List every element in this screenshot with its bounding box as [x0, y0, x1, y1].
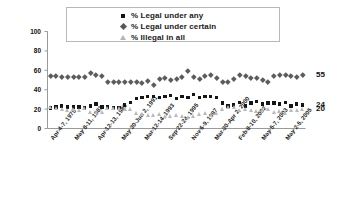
- data-point-square: [278, 102, 281, 105]
- data-point-square: [221, 101, 224, 104]
- series-end-value-label: 55: [316, 71, 325, 79]
- legend-item-legal-under-any: % Legal under any: [119, 10, 216, 20]
- data-point-triangle: [260, 108, 264, 112]
- data-point-triangle: [277, 109, 281, 113]
- data-point-triangle: [60, 107, 64, 111]
- series-end-value-label: 20: [316, 105, 325, 113]
- data-point-triangle: [209, 113, 213, 117]
- data-point-triangle: [266, 107, 270, 111]
- data-point-square: [255, 100, 258, 103]
- data-point-square: [129, 101, 132, 104]
- data-point-triangle: [105, 106, 109, 110]
- data-point-triangle: [134, 111, 138, 115]
- data-point-square: [266, 101, 269, 104]
- data-point-square: [135, 97, 138, 100]
- data-point-square: [100, 105, 103, 108]
- y-axis-tick-label: 100: [17, 28, 41, 35]
- data-point-square: [209, 95, 212, 98]
- data-point-square: [295, 102, 298, 105]
- data-point-triangle: [163, 114, 167, 118]
- data-point-triangle: [243, 107, 247, 111]
- data-point-triangle: [254, 109, 258, 113]
- data-point-square: [180, 95, 183, 98]
- data-point-square: [169, 94, 172, 97]
- data-point-square: [94, 102, 97, 105]
- data-point-triangle: [197, 112, 201, 116]
- data-point-triangle: [237, 108, 241, 112]
- data-point-triangle: [146, 113, 150, 117]
- data-point-square: [140, 96, 143, 99]
- data-point-triangle: [289, 108, 293, 112]
- data-point-triangle: [54, 106, 58, 110]
- data-point-triangle: [180, 114, 184, 118]
- legend-item-illegal-in-all: % Illegal in all: [119, 32, 216, 42]
- data-point-triangle: [48, 105, 52, 109]
- y-axis-tick-label: 40: [17, 86, 41, 93]
- data-point-triangle: [65, 108, 69, 112]
- data-point-triangle: [220, 107, 224, 111]
- data-point-triangle: [94, 110, 98, 114]
- data-point-triangle: [157, 112, 161, 116]
- data-point-triangle: [272, 110, 276, 114]
- diamond-marker-icon: [119, 22, 128, 31]
- data-point-square: [238, 101, 241, 104]
- data-point-triangle: [151, 113, 155, 117]
- data-point-triangle: [283, 111, 287, 115]
- data-point-square: [203, 95, 206, 98]
- data-point-triangle: [100, 110, 104, 114]
- y-axis-tick-label: 80: [17, 47, 41, 54]
- data-point-square: [152, 95, 155, 98]
- data-point-triangle: [140, 112, 144, 116]
- data-point-square: [175, 97, 178, 100]
- y-axis-tick-label: 0: [17, 125, 41, 132]
- data-point-square: [192, 93, 195, 96]
- legend-rows: % Legal under any % Legal under certain …: [119, 10, 216, 43]
- data-point-square: [284, 101, 287, 104]
- legend-item-legal-under-certain: % Legal under certain: [119, 21, 216, 31]
- data-point-triangle: [123, 107, 127, 111]
- data-point-triangle: [111, 106, 115, 110]
- data-point-triangle: [226, 105, 230, 109]
- chart-container: % Legal under any % Legal under certain …: [0, 0, 341, 201]
- data-point-square: [146, 95, 149, 98]
- data-point-square: [215, 96, 218, 99]
- data-point-triangle: [88, 110, 92, 114]
- data-point-square: [261, 102, 264, 105]
- data-point-triangle: [295, 108, 299, 112]
- data-point-triangle: [128, 107, 132, 111]
- data-point-square: [89, 104, 92, 107]
- data-point-triangle: [168, 114, 172, 118]
- data-point-triangle: [82, 106, 86, 110]
- triangle-marker-icon: [119, 33, 128, 42]
- data-point-square: [198, 96, 201, 99]
- data-point-triangle: [300, 107, 304, 111]
- data-point-square: [272, 101, 275, 104]
- data-point-triangle: [117, 106, 121, 110]
- data-point-triangle: [77, 108, 81, 112]
- data-point-square: [163, 95, 166, 98]
- data-point-square: [158, 96, 161, 99]
- data-point-triangle: [203, 111, 207, 115]
- data-point-triangle: [174, 113, 178, 117]
- data-point-triangle: [214, 111, 218, 115]
- legend-label: % Legal under certain: [131, 22, 216, 31]
- y-axis-tick-label: 20: [17, 106, 41, 113]
- y-axis-tick-label: 60: [17, 67, 41, 74]
- legend-label: % Illegal in all: [131, 33, 185, 42]
- data-point-triangle: [191, 114, 195, 118]
- data-point-triangle: [186, 115, 190, 119]
- legend-label: % Legal under any: [131, 11, 203, 20]
- data-point-square: [186, 96, 189, 99]
- data-point-square: [249, 101, 252, 104]
- square-marker-icon: [119, 11, 128, 20]
- data-point-triangle: [232, 105, 236, 109]
- data-point-triangle: [71, 107, 75, 111]
- data-point-triangle: [249, 108, 253, 112]
- chart-legend: % Legal under any % Legal under certain …: [66, 7, 280, 42]
